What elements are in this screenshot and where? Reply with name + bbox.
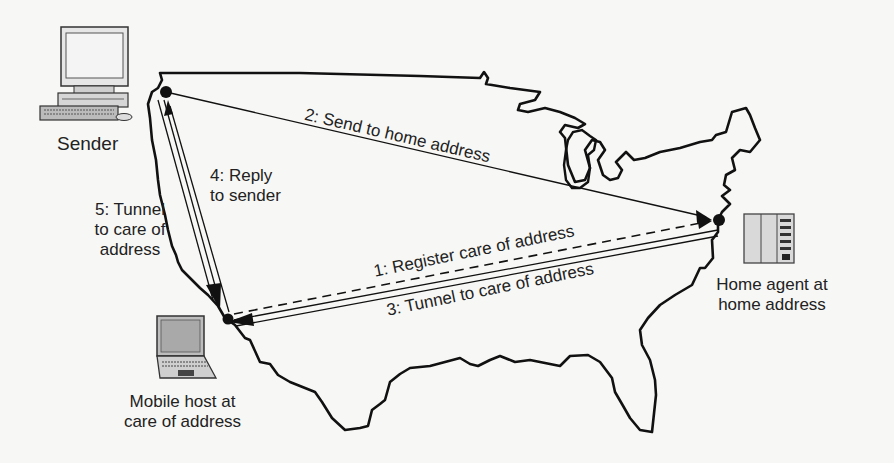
home-agent-label-line1: Home agent at (716, 275, 828, 295)
step-4-reply-line (170, 106, 229, 312)
home-agent-label-line2: home address (716, 295, 828, 315)
sender-node-dot (160, 86, 172, 98)
server-icon (744, 214, 794, 263)
home-agent-node-dot (713, 214, 725, 226)
step-5-label-line2: to care of (84, 220, 176, 240)
mobile-host-node-dot (223, 314, 234, 325)
great-lakes (564, 130, 596, 188)
desktop-computer-icon (40, 27, 132, 121)
step-4-label-line1: 4: Reply (210, 166, 281, 186)
mobile-host-label: Mobile host at care of address (110, 392, 255, 432)
home-agent-label: Home agent at home address (716, 275, 828, 315)
step-4-arrowhead (164, 100, 173, 116)
sender-label: Sender (57, 134, 118, 154)
step-5-label-line3: address (84, 240, 176, 260)
mobile-host-label-line1: Mobile host at (110, 392, 255, 412)
step-5-label-line1: 5: Tunnel (84, 200, 176, 220)
mobile-ip-diagram: Sender Home agent at home address Mobile… (0, 0, 894, 463)
laptop-icon (157, 316, 216, 378)
step-4-label: 4: Reply to sender (210, 166, 281, 206)
step-5-label: 5: Tunnel to care of address (84, 200, 176, 260)
mobile-host-label-line2: care of address (110, 412, 255, 432)
step-4-label-line2: to sender (210, 186, 281, 206)
